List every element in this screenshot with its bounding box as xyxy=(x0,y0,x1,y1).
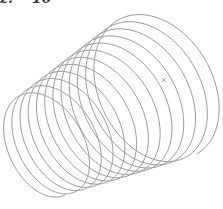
center-marker-icon xyxy=(162,78,166,82)
helix-coil xyxy=(4,15,219,198)
conical-helix-diagram xyxy=(0,0,223,209)
